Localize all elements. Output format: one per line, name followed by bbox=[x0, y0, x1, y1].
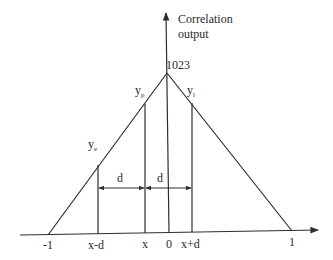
correlation-diagram: Correlation output 1023 yp yl ye d d -1 … bbox=[0, 0, 333, 260]
point-label-ye: ye bbox=[88, 137, 97, 153]
point-label-yp: yp bbox=[135, 83, 145, 99]
tick-label-zero: 0 bbox=[166, 237, 172, 251]
y-axis-label-line2: output bbox=[178, 27, 209, 41]
spacing-label-right: d bbox=[157, 171, 163, 185]
tick-label-x: x bbox=[142, 237, 148, 251]
point-label-ye-sub: e bbox=[94, 145, 97, 153]
triangle-left-side bbox=[48, 73, 167, 235]
point-label-yl: yl bbox=[187, 83, 195, 99]
point-label-yp-sub: p bbox=[141, 91, 145, 99]
tick-label-x-minus-d: x-d bbox=[88, 238, 104, 252]
y-axis-label-line1: Correlation bbox=[178, 12, 233, 26]
tick-label-neg-one: -1 bbox=[43, 238, 53, 252]
tick-label-x-plus-d: x+d bbox=[181, 237, 200, 251]
peak-value-label: 1023 bbox=[166, 58, 190, 72]
spacing-label-left: d bbox=[117, 171, 123, 185]
triangle-right-side bbox=[167, 73, 292, 231]
point-label-yl-sub: l bbox=[193, 91, 195, 99]
tick-label-one: 1 bbox=[289, 235, 295, 249]
y-axis bbox=[166, 13, 169, 233]
